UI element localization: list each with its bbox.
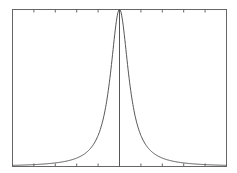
chart (0, 0, 237, 173)
